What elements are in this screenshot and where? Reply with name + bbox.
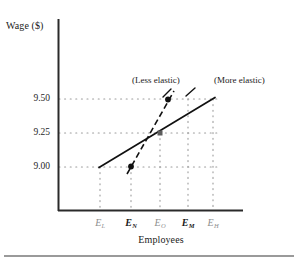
series-less-elastic <box>127 91 174 174</box>
y-tick-label-925: 9.25 <box>12 127 50 137</box>
x-tick-base-en: E <box>125 217 132 228</box>
annotation-less-elastic: (Less elastic) <box>132 75 180 85</box>
x-tick-sub-el: L <box>102 222 106 229</box>
x-tick-label-en: EN <box>125 217 136 228</box>
series-more-elastic <box>99 98 215 168</box>
x-tick-sub-en: N <box>132 222 137 229</box>
x-tick-label-eh: EH <box>208 217 219 228</box>
data-point-em <box>165 97 171 103</box>
x-tick-label-el: EL <box>95 217 105 228</box>
annotation-more-elastic: (More elastic) <box>214 75 265 85</box>
x-tick-base-em: E <box>182 217 189 228</box>
y-axis-title: Wage ($) <box>6 20 43 31</box>
axis-lines <box>58 19 243 211</box>
annotation-leaders <box>163 88 195 97</box>
vertical-gridlines <box>100 99 213 209</box>
bottom-divider <box>4 255 294 257</box>
intersection-marker <box>158 131 163 136</box>
x-axis-title: Employees <box>0 234 298 245</box>
x-tick-label-eo: EO <box>155 217 166 228</box>
x-tick-label-em: EM <box>182 217 194 228</box>
x-tick-sub-eo: O <box>161 222 166 229</box>
x-tick-sub-eh: H <box>214 222 219 229</box>
x-tick-sub-em: M <box>189 222 195 229</box>
data-point-en <box>128 164 134 170</box>
y-tick-label-950: 9.50 <box>12 93 50 103</box>
y-tick-label-900: 9.00 <box>12 161 50 171</box>
figure-container: Wage ($) Employees 9.50 9.25 9.00 EL EN … <box>0 0 298 265</box>
